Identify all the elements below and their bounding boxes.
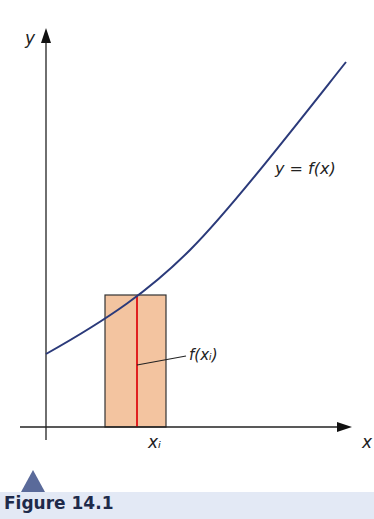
function-curve	[46, 62, 346, 354]
x-axis-arrow-icon	[337, 422, 352, 432]
y-axis-label: y	[25, 28, 35, 48]
y-axis-arrow-icon	[41, 28, 51, 43]
xi-label: xᵢ	[148, 432, 161, 452]
x-axis-label: x	[362, 432, 372, 452]
riemann-diagram	[0, 0, 374, 519]
height-label: f(xᵢ)	[189, 346, 218, 364]
figure-marker-icon	[21, 470, 45, 492]
curve-label: y = f(x)	[275, 159, 336, 178]
figure-caption: Figure 14.1	[4, 493, 114, 513]
